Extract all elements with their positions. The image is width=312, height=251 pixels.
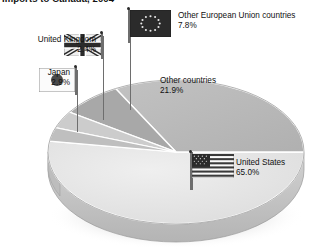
flag-pole — [101, 33, 103, 59]
callout-other-countries: Other countries 21.9% — [160, 76, 216, 96]
pie-slices — [48, 80, 304, 224]
callout-value-united-kingdom: 2.4% — [0, 45, 96, 55]
callout-value-other-countries: 21.9% — [160, 86, 216, 96]
callout-label-japan: Japan — [48, 68, 70, 77]
callout-label-other-countries: Other countries — [160, 76, 216, 85]
flag-united-states — [192, 154, 234, 178]
callout-value-united-states: 65.0% — [236, 168, 285, 178]
callout-value-other-eu: 7.8% — [178, 21, 295, 31]
flag-european-union — [130, 10, 171, 37]
flag-pole — [75, 67, 77, 95]
callout-label-other-eu: Other European Union countries — [178, 11, 295, 20]
callout-value-japan: 2.9% — [0, 78, 70, 88]
callout-label-united-kingdom: United Kingdom — [38, 35, 96, 44]
leader-line-united-kingdom — [103, 36, 105, 120]
callout-label-united-states: United States — [236, 158, 285, 167]
leader-line-japan — [77, 70, 79, 132]
